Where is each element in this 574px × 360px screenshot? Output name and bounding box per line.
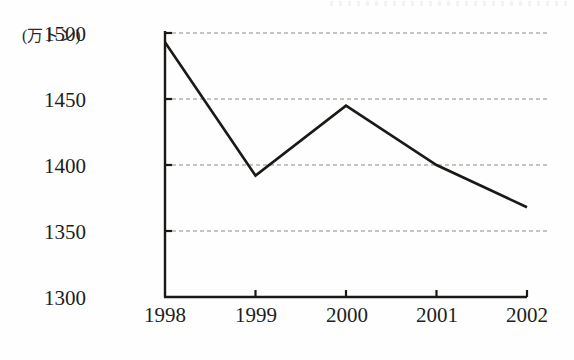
line-chart-figure: (万トン) 1500 1450 1400 1350 1300 1998 1999… xyxy=(0,0,574,360)
plot-area xyxy=(0,0,574,360)
gridlines-group xyxy=(165,33,547,231)
axes-group xyxy=(164,31,527,297)
data-series-line xyxy=(165,42,527,207)
